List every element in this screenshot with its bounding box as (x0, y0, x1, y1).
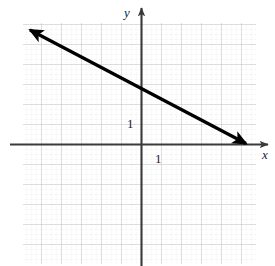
x-axis-label: x (262, 148, 268, 161)
coordinate-plane-svg (0, 0, 275, 266)
y-axis-label: y (124, 6, 130, 19)
y-axis-tick-label-one: 1 (127, 117, 134, 130)
graph-figure: y x 1 1 (0, 0, 275, 266)
x-axis-tick-label-one: 1 (155, 152, 162, 165)
